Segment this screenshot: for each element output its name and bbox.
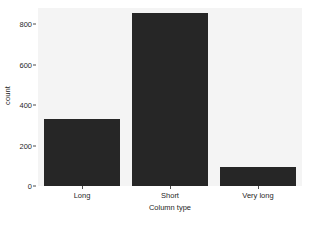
y-tick-label: 0: [28, 182, 32, 191]
y-tick-label: 800: [19, 20, 32, 29]
plot-panel: [38, 8, 302, 186]
y-axis-title: count: [0, 0, 14, 190]
bar-long: [44, 119, 119, 186]
x-axis-title: Column type: [38, 203, 302, 212]
bar-short: [132, 13, 207, 186]
y-axis-title-label: count: [3, 86, 12, 105]
y-tick-mark: [33, 24, 36, 25]
y-tick-mark: [33, 186, 36, 187]
y-tick-mark: [33, 105, 36, 106]
bar-very-long: [220, 167, 295, 186]
y-tick-mark: [33, 145, 36, 146]
bar-chart-figure: count 0200400600800 LongShortVery long C…: [0, 0, 320, 227]
x-tick-mark: [82, 186, 83, 189]
y-tick-label: 200: [19, 141, 32, 150]
y-tick-label: 400: [19, 101, 32, 110]
x-tick-mark: [170, 186, 171, 189]
x-tick-label-short: Short: [161, 191, 179, 200]
x-tick-label-long: Long: [74, 191, 91, 200]
x-tick-mark: [258, 186, 259, 189]
y-tick-label: 600: [19, 60, 32, 69]
y-axis-tick-labels: 0200400600800: [14, 0, 36, 190]
x-tick-label-very-long: Very long: [242, 191, 273, 200]
y-tick-mark: [33, 64, 36, 65]
